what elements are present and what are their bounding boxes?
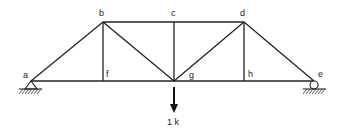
truss-canvas: b c d a f g h e 1 k: [0, 0, 338, 131]
joint-label-f: f: [106, 69, 109, 79]
joint-label-g: g: [189, 70, 194, 80]
pin-support-icon: [19, 81, 42, 94]
joint-label-e: e: [318, 69, 323, 79]
joint-label-h: h: [248, 69, 253, 79]
load-arrow-icon: [170, 87, 178, 113]
roller-support-icon: [303, 81, 326, 94]
joint-label-c: c: [171, 8, 176, 18]
member-bg: [103, 22, 174, 81]
joint-label-d: d: [240, 8, 245, 18]
truss-members: [31, 22, 314, 81]
member-de: [244, 22, 314, 81]
load-label: 1 k: [167, 117, 180, 127]
member-ab: [31, 22, 103, 81]
joint-label-b: b: [99, 8, 104, 18]
joint-label-a: a: [23, 70, 28, 80]
member-gd: [174, 22, 244, 81]
truss-diagram: b c d a f g h e 1 k: [0, 0, 338, 131]
